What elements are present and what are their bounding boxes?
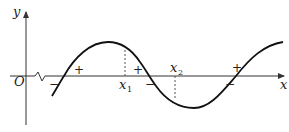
- svg-text:2: 2: [178, 68, 183, 77]
- axis-break-icon: [35, 72, 45, 81]
- svg-text:x: x: [170, 60, 178, 75]
- sign-plus-3: +: [232, 61, 242, 75]
- svg-text:x: x: [119, 77, 127, 92]
- function-graph: y x O x 1 x 2 − + + − − +: [0, 0, 289, 132]
- sign-plus-2: +: [133, 63, 143, 77]
- origin-label: O: [14, 74, 25, 89]
- x-axis-label: x: [280, 77, 288, 92]
- x1-label: x 1: [119, 77, 132, 94]
- svg-text:1: 1: [127, 85, 132, 94]
- function-curve: [52, 42, 283, 108]
- sign-minus-1: −: [49, 77, 59, 91]
- sign-minus-2: −: [145, 77, 155, 91]
- sign-plus-1: +: [74, 63, 84, 77]
- sign-minus-3: −: [225, 77, 235, 91]
- y-axis-label: y: [12, 4, 21, 19]
- x2-label: x 2: [170, 60, 183, 77]
